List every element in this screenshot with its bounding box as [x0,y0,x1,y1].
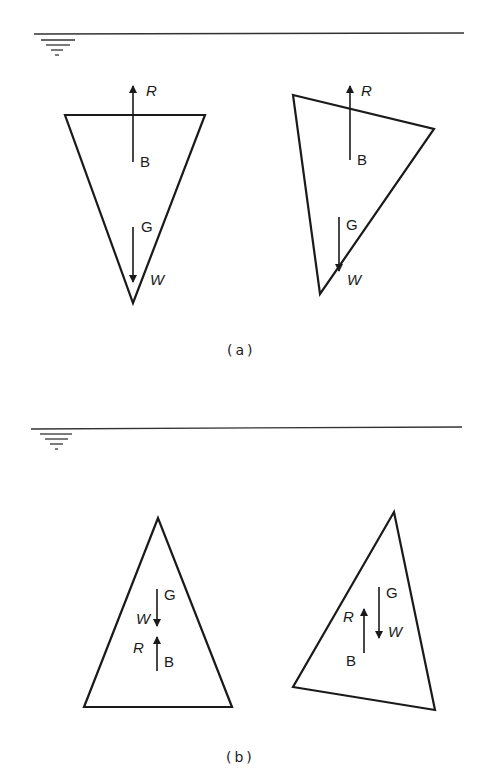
label-B: B [346,652,356,669]
label-W: W [150,271,166,288]
label-W: W [136,610,152,627]
body-a-right: R B G W [293,82,434,294]
label-G: G [346,216,358,233]
body-b-left: G W R B [84,518,232,707]
body-a-left: R B G W [65,82,205,303]
caption-a: (a) [227,342,256,358]
label-B: B [164,653,174,670]
water-surface-b [31,427,462,449]
panel-b: G W R B G W R B (b) [31,427,462,765]
label-W: W [388,623,404,640]
label-G: G [164,586,176,603]
label-R: R [146,82,157,99]
label-B: B [357,151,367,168]
label-B: B [140,153,150,170]
label-R: R [343,608,354,625]
label-R: R [133,639,144,656]
body-b-right: G W R B [293,512,435,710]
water-surface-a [34,33,464,55]
label-R: R [361,82,372,99]
panel-a: R B G W R B G W (a) [34,33,464,358]
buoyancy-stability-diagram: R B G W R B G W (a) [0,0,483,783]
label-G: G [141,218,153,235]
caption-b: (b) [226,749,255,765]
label-W: W [347,271,363,288]
label-G: G [386,584,398,601]
